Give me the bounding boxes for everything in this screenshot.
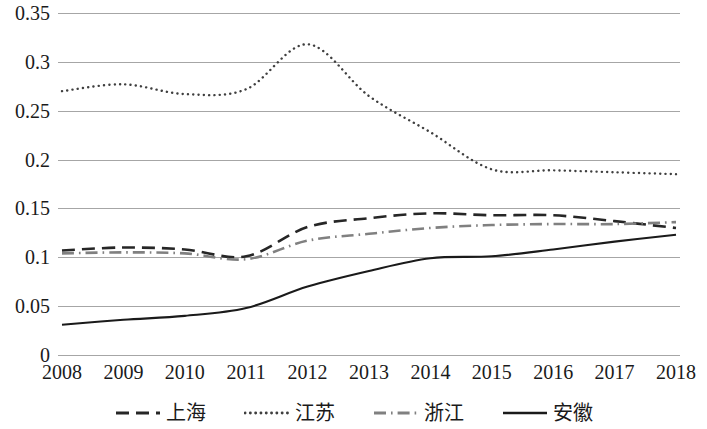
legend-item[interactable]: 浙江 bbox=[373, 403, 464, 423]
x-tick-label: 2018 bbox=[656, 362, 696, 382]
y-tick-label: 0.15 bbox=[15, 198, 50, 218]
line-chart: 0.350.30.250.20.150.10.050 2008200920102… bbox=[0, 0, 707, 429]
x-tick-label: 2010 bbox=[165, 362, 205, 382]
legend-label: 安徽 bbox=[553, 403, 593, 423]
legend-label: 江苏 bbox=[295, 403, 335, 423]
legend-swatch-dashed-icon bbox=[115, 406, 161, 420]
plot-area bbox=[58, 0, 680, 368]
x-tick-label: 2011 bbox=[227, 362, 266, 382]
series-line-1 bbox=[62, 44, 676, 174]
series-line-2 bbox=[62, 222, 676, 260]
legend-swatch-dotted-icon bbox=[244, 406, 290, 420]
legend-item[interactable]: 上海 bbox=[115, 403, 206, 423]
y-axis: 0.350.30.250.20.150.10.050 bbox=[0, 0, 58, 368]
x-tick-label: 2014 bbox=[410, 362, 450, 382]
y-tick-label: 0.25 bbox=[15, 101, 50, 121]
legend-item[interactable]: 安徽 bbox=[502, 403, 593, 423]
y-tick-label: 0.1 bbox=[25, 247, 50, 267]
x-tick-label: 2008 bbox=[42, 362, 82, 382]
legend-item[interactable]: 江苏 bbox=[244, 403, 335, 423]
legend-label: 浙江 bbox=[424, 403, 464, 423]
x-tick-label: 2012 bbox=[288, 362, 328, 382]
chart-legend: 上海江苏浙江安徽 bbox=[0, 396, 707, 429]
y-tick-label: 0.35 bbox=[15, 3, 50, 23]
legend-label: 上海 bbox=[166, 403, 206, 423]
x-tick-label: 2013 bbox=[349, 362, 389, 382]
x-axis: 2008200920102011201220132014201520162017… bbox=[58, 362, 680, 392]
y-tick-label: 0.05 bbox=[15, 296, 50, 316]
series-line-0 bbox=[62, 213, 676, 257]
legend-swatch-solid-icon bbox=[502, 406, 548, 420]
x-tick-label: 2017 bbox=[595, 362, 635, 382]
x-tick-label: 2016 bbox=[533, 362, 573, 382]
y-tick-label: 0.2 bbox=[25, 150, 50, 170]
x-tick-label: 2015 bbox=[472, 362, 512, 382]
legend-swatch-dash-dot-icon bbox=[373, 406, 419, 420]
y-tick-label: 0.3 bbox=[25, 52, 50, 72]
series-lines bbox=[58, 0, 680, 368]
x-tick-label: 2009 bbox=[103, 362, 143, 382]
